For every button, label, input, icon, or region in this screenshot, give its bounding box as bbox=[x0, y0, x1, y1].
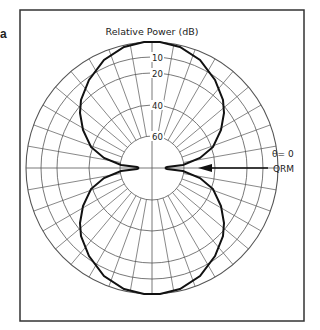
tick-label: 10 bbox=[152, 53, 163, 63]
spoke bbox=[109, 198, 141, 286]
chart-title: Relative Power (dB) bbox=[105, 26, 198, 37]
polar-diagram: 10204060 Relative Power (dB) θ= 0 QRM bbox=[0, 0, 320, 330]
arrowhead-icon bbox=[198, 164, 212, 172]
qrm-label: QRM bbox=[273, 164, 294, 174]
theta-zero-label: θ= 0 bbox=[272, 149, 294, 159]
spoke bbox=[182, 179, 270, 211]
spoke bbox=[163, 198, 195, 286]
spoke bbox=[109, 50, 141, 138]
tick-label: 60 bbox=[152, 132, 163, 142]
tick-label: 20 bbox=[152, 69, 163, 79]
spoke bbox=[34, 125, 122, 157]
spoke bbox=[34, 179, 122, 211]
spoke bbox=[182, 125, 270, 157]
tick-label: 40 bbox=[152, 101, 163, 111]
qrm-arrow bbox=[198, 164, 268, 172]
spoke bbox=[163, 50, 195, 138]
